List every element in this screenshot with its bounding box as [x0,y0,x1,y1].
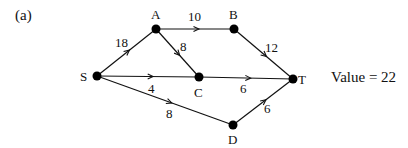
node-label: D [228,132,237,147]
node-t: T [289,72,307,87]
node-dot [152,25,161,34]
node-b: B [229,7,239,34]
edge-capacity-label: 18 [115,35,128,50]
node-label: T [298,72,306,87]
node-dot [195,73,204,82]
node-label: S [80,69,87,84]
edge-c-t: 6 [199,75,293,96]
node-label: B [229,7,238,22]
node-c: C [194,73,204,101]
edge-s-d: 8 [97,76,233,125]
node-d: D [228,121,238,148]
edge-capacity-label: 6 [264,101,271,116]
node-dot [229,121,238,130]
edge-capacity-label: 8 [166,106,173,121]
flow-value-label: Value = 22 [331,69,396,86]
node-dot [230,25,239,34]
node-label: A [151,7,161,22]
edge-b-t: 12 [234,29,293,79]
edge-capacity-label: 4 [148,81,155,96]
edge-capacity-label: 12 [265,40,278,55]
node-s: S [80,69,102,84]
edge-capacity-label: 10 [188,9,201,24]
edge-capacity-label: 6 [240,81,247,96]
edge-a-c: 8 [156,29,199,77]
edge-a-b: 10 [156,9,234,32]
node-label: C [194,85,203,100]
edge-capacity-label: 8 [180,39,187,54]
node-dot [93,72,102,81]
node-a: A [151,7,161,34]
edge-s-c: 4 [97,74,199,96]
edge-s-a: 18 [97,29,156,76]
node-dot [289,75,298,84]
